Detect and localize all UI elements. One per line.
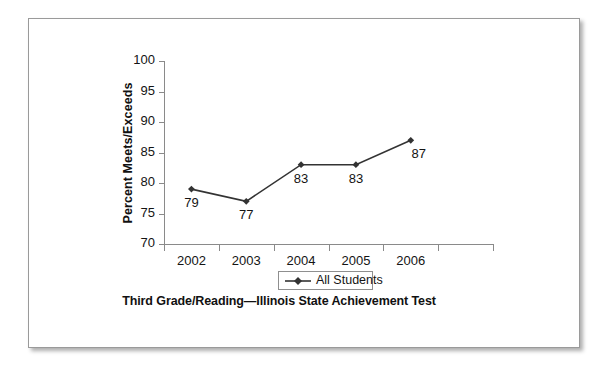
figure-card: Percent Meets/Exceeds 100959085807570 20… xyxy=(28,18,580,348)
data-point-marker xyxy=(407,137,414,144)
data-point-value-label: 83 xyxy=(349,171,363,186)
data-point-value-label: 87 xyxy=(412,146,426,161)
data-point-value-label: 79 xyxy=(184,195,198,210)
chart-legend[interactable]: All Students xyxy=(278,271,373,290)
data-point-value-label: 77 xyxy=(239,207,253,222)
legend-item-label: All Students xyxy=(316,274,383,287)
data-point-value-label: 83 xyxy=(294,171,308,186)
chart-caption: Third Grade/Reading—Illinois State Achie… xyxy=(29,294,529,308)
data-point-marker xyxy=(353,161,360,168)
data-point-marker xyxy=(188,186,195,193)
line-chart: Percent Meets/Exceeds 100959085807570 20… xyxy=(29,19,581,349)
legend-marker-icon xyxy=(284,275,312,287)
